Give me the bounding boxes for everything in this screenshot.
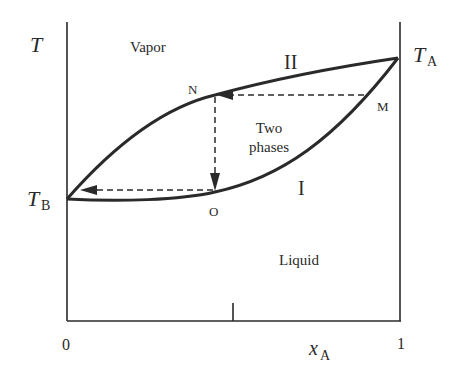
region-two-phases-label-2: phases [249, 139, 289, 155]
point-N-label: N [188, 82, 198, 97]
point-TB-subscript: B [41, 198, 50, 213]
curve-I-label: I [298, 177, 305, 199]
region-vapor-label: Vapor [130, 39, 166, 55]
point-TA-subscript: A [427, 54, 438, 69]
curve-II-vapor-line [67, 58, 398, 199]
y-axis-label: T [30, 32, 44, 57]
x-axis-label: x [308, 337, 318, 359]
phase-diagram: T Vapor II T A N M Two phases T B O I Li… [0, 0, 458, 381]
point-TA-label: T [413, 42, 427, 67]
point-M-label: M [377, 99, 389, 114]
x-axis-min-label: 0 [62, 336, 70, 353]
arrowhead-TB [80, 185, 97, 195]
region-liquid-label: Liquid [279, 252, 319, 268]
curve-II-label: II [284, 51, 297, 73]
point-TB-label: T [27, 186, 41, 211]
arrowhead-O [210, 173, 220, 191]
curve-I-liquid-line [67, 58, 398, 200]
region-two-phases-label-1: Two [256, 120, 282, 136]
x-axis-label-subscript: A [320, 348, 331, 363]
point-O-label: O [209, 204, 218, 219]
x-axis-max-label: 1 [397, 335, 405, 352]
